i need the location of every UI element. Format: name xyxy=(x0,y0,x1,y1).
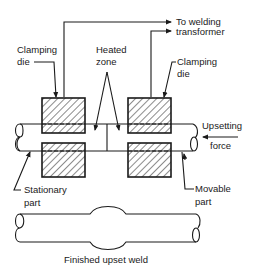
lead-wire-right xyxy=(151,31,171,97)
clamping-die-right-lower xyxy=(128,143,171,177)
label-movable-part: part xyxy=(195,196,212,207)
label-transformer: transformer xyxy=(176,26,225,37)
label-force: force xyxy=(210,140,231,151)
leader-clamping-die-left xyxy=(34,62,56,97)
label-clamping-die-right-2: die xyxy=(177,68,190,79)
label-heated-zone-2: zone xyxy=(96,56,117,67)
finished-weld-profile xyxy=(16,207,201,250)
label-heated-zone-1: Heated xyxy=(96,44,127,55)
clamping-die-left-lower xyxy=(42,143,85,177)
leader-movable-part xyxy=(181,152,194,189)
label-clamping-die-right-1: Clamping xyxy=(177,56,217,67)
leader-heated-zone xyxy=(95,72,119,130)
label-upsetting: Upsetting xyxy=(202,120,242,131)
clamping-die-left-upper xyxy=(42,98,85,133)
label-stationary: Stationary xyxy=(24,184,67,195)
label-clamping-die-left-2: die xyxy=(17,56,30,67)
label-stationary-part: part xyxy=(24,197,41,208)
clamping-die-right-upper xyxy=(128,98,171,133)
label-clamping-die-left-1: Clamping xyxy=(17,44,57,55)
upset-welding-diagram: To welding transformer Clamping die Heat… xyxy=(0,0,255,266)
leader-clamping-die-right xyxy=(164,62,176,97)
lead-wire-left xyxy=(64,22,171,97)
caption: Finished upset weld xyxy=(64,254,148,265)
label-movable: Movable xyxy=(195,183,231,194)
